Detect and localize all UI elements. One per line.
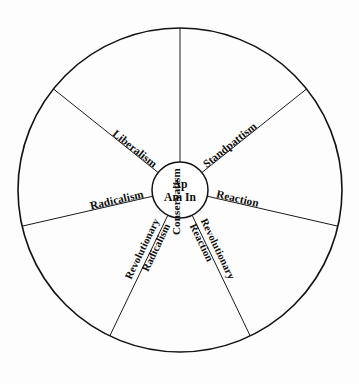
sector-labels-group: ConservatismStandpattismReactionRevoluti… — [89, 119, 261, 286]
sector-label-revolutionary-reaction: RevolutionaryReaction — [188, 217, 238, 287]
sector-label-revolutionary-radicalism: RevolutionaryRadicalism — [123, 216, 173, 286]
sector-label-reaction: Reaction — [215, 188, 260, 209]
sector-label-text: Reaction — [215, 188, 260, 209]
sector-label-text: Standpattism — [200, 119, 259, 169]
sector-label-liberalism: Liberalism — [110, 127, 160, 170]
sector-label-radicalism: Radicalism — [89, 187, 145, 211]
sector-label-text: Radicalism — [89, 187, 145, 211]
sector-label-conservatism: Conservatism — [170, 167, 182, 235]
sector-label-text: Conservatism — [170, 167, 182, 235]
political-spectrum-wheel-figure: Ap Am In ConservatismStandpattismReactio… — [0, 0, 359, 384]
sector-label-text: Liberalism — [110, 127, 160, 170]
sector-label-standpattism: Standpattism — [200, 119, 259, 169]
wheel-diagram: Ap Am In ConservatismStandpattismReactio… — [0, 0, 359, 384]
